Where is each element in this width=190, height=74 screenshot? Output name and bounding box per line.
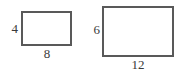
large-rectangle-shape [102,6,174,57]
small-rectangle-width-label: 8 [33,47,61,60]
small-rectangle-shape [21,11,72,46]
large-rectangle-height-label: 6 [86,23,100,36]
figure-canvas: 4 8 6 12 [0,0,190,74]
small-rectangle-height-label: 4 [4,22,18,35]
large-rectangle-width-label: 12 [124,58,152,71]
